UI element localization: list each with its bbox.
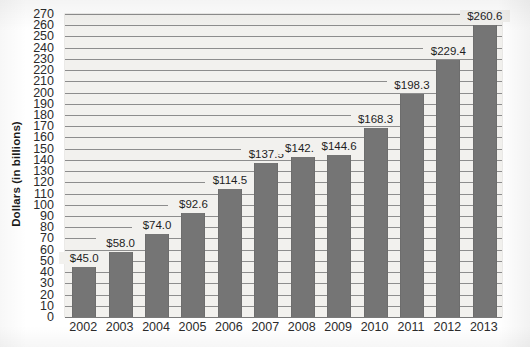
y-axis-tick-label: 70 (40, 232, 54, 245)
x-axis-tick-label-2010: 2010 (356, 320, 392, 334)
bar-2013 (473, 25, 497, 317)
y-axis-tick-label: 190 (33, 98, 54, 111)
x-axis-tick-label-2004: 2004 (138, 320, 174, 334)
plot-area: $45.0$58.0$74.0$92.6$114.5$137.5$142.5$1… (65, 14, 502, 317)
gridline (65, 14, 502, 15)
gridline (65, 36, 502, 37)
y-axis-tick-label: 170 (33, 120, 54, 133)
x-axis-tick-label-2007: 2007 (247, 320, 283, 334)
bar-value-label-2012: $229.4 (423, 45, 473, 57)
y-axis-tick-label: 210 (33, 75, 54, 88)
x-axis-tick-labels: 2002200320042005200620072008200920102011… (65, 320, 502, 342)
y-axis-tick-label: 140 (33, 154, 54, 167)
bar-2006 (218, 189, 242, 317)
y-axis-tick-label: 180 (33, 109, 54, 122)
y-axis-tick-labels: 0102030405060708090100110120130140150160… (22, 0, 54, 347)
bar-2007 (254, 163, 278, 317)
x-axis-tick-label-2002: 2002 (65, 320, 101, 334)
y-axis-tick-label: 240 (33, 42, 54, 55)
y-axis-tick-label: 50 (40, 255, 54, 268)
bar-value-label-2005: $92.6 (168, 198, 218, 210)
bar-2012 (436, 60, 460, 317)
bar-2008 (291, 157, 315, 317)
x-axis-tick-label-2006: 2006 (211, 320, 247, 334)
bar-2002 (72, 267, 96, 318)
y-axis-tick-label: 220 (33, 64, 54, 77)
bar-2004 (145, 234, 169, 317)
x-axis-tick-label-2013: 2013 (466, 320, 502, 334)
y-axis-tick-label: 90 (40, 210, 54, 223)
bar-value-label-2011: $198.3 (387, 79, 437, 91)
y-axis-tick-label: 40 (40, 266, 54, 279)
y-axis-tick-label: 230 (33, 53, 54, 66)
x-axis-tick-label-2009: 2009 (320, 320, 356, 334)
x-axis-tick-label-2012: 2012 (429, 320, 465, 334)
y-axis-tick-label: 260 (33, 19, 54, 32)
y-axis-tick-label: 130 (33, 165, 54, 178)
bar-value-label-2003: $58.0 (96, 237, 146, 249)
bar-value-label-2010: $168.3 (351, 113, 401, 125)
y-axis-tick-label: 110 (34, 188, 54, 201)
bar-2011 (400, 94, 424, 317)
y-axis-tick-label: 10 (40, 300, 54, 313)
x-axis-tick-label-2011: 2011 (393, 320, 429, 334)
bar-2005 (181, 213, 205, 317)
y-axis-tick-label: 200 (33, 87, 54, 100)
x-axis-tick-label-2008: 2008 (284, 320, 320, 334)
y-axis-tick-label: 30 (40, 277, 54, 290)
bar-value-label-2002: $45.0 (59, 252, 109, 264)
bar-value-label-2006: $114.5 (205, 174, 255, 186)
y-axis-tick-label: 270 (33, 8, 54, 21)
bar-2009 (327, 155, 351, 317)
gridline (65, 317, 502, 318)
y-axis-tick-label: 250 (33, 30, 54, 43)
y-axis-tick-label: 0 (47, 311, 54, 324)
y-axis-tick-label: 100 (33, 199, 54, 212)
y-axis-tick-label: 20 (40, 289, 54, 302)
bar-2010 (364, 128, 388, 317)
bar-value-label-2009: $144.6 (314, 140, 364, 152)
y-axis-tick-label: 80 (40, 221, 54, 234)
x-axis-tick-label-2003: 2003 (101, 320, 137, 334)
bar-chart: Dollars (in billions) 010203040506070809… (0, 0, 530, 347)
y-axis-title-text: Dollars (in billions) (10, 121, 22, 227)
y-axis-tick-label: 120 (33, 176, 54, 189)
y-axis-tick-label: 60 (40, 244, 54, 257)
gridline (65, 25, 502, 26)
bar-2003 (109, 252, 133, 317)
bar-value-label-2004: $74.0 (132, 219, 182, 231)
x-axis-tick-label-2005: 2005 (174, 320, 210, 334)
y-axis-tick-label: 160 (33, 131, 54, 144)
y-axis-tick-label: 150 (33, 143, 54, 156)
bar-value-label-2013: $260.6 (460, 10, 510, 22)
